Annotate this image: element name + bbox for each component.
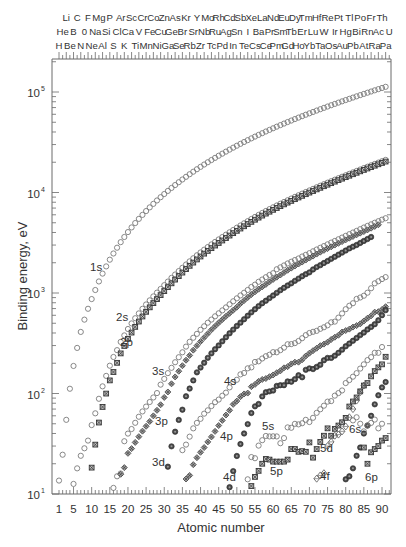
x-axis-title: Atomic number xyxy=(177,520,265,535)
element-symbol: Lu xyxy=(308,26,319,37)
element-symbol: In xyxy=(229,40,237,51)
element-symbol: Er xyxy=(297,26,307,37)
shell-label-2p: 2p xyxy=(120,336,133,348)
x-tick-label: 75 xyxy=(321,503,334,515)
y-tick-exponent: 2 xyxy=(41,387,45,394)
element-symbol: Bi xyxy=(352,26,361,37)
element-symbol: N xyxy=(77,40,84,51)
x-tick-label: 50 xyxy=(230,503,243,515)
x-tick-label: 85 xyxy=(357,503,370,515)
x-tick-label: 1 xyxy=(56,503,62,515)
shell-label-3p: 3p xyxy=(155,415,168,427)
x-tick-label: 25 xyxy=(140,503,153,515)
element-symbol: U xyxy=(386,26,393,37)
series-3s xyxy=(111,216,388,491)
x-tick-label: 45 xyxy=(212,503,225,515)
shell-label-6s: 6s xyxy=(349,423,361,435)
element-symbol: I xyxy=(246,26,249,37)
binding-energy-chart: LiCFMgPArScCrCoZnAsKrYMoRhCdSbXeLaNdEuDy… xyxy=(0,0,406,547)
element-symbol: Pa xyxy=(380,40,392,51)
element-symbol: Ac xyxy=(373,26,384,37)
shell-label-6p: 6p xyxy=(365,471,378,483)
element-symbol: Th xyxy=(376,12,387,23)
element-symbol: Y xyxy=(194,12,201,23)
shell-label-4s: 4s xyxy=(224,375,236,387)
element-symbol: Ne xyxy=(86,40,98,51)
element-symbol: K xyxy=(121,40,128,51)
y-tick-label: 10 xyxy=(27,389,40,401)
y-tick-label: 10 xyxy=(27,188,40,200)
x-tick-label: 5 xyxy=(70,503,76,515)
y-tick-label: 10 xyxy=(27,87,40,99)
element-symbol: Mg xyxy=(92,12,105,23)
x-tick-label: 65 xyxy=(285,503,298,515)
shell-label-5p: 5p xyxy=(270,465,283,477)
x-tick-label: 15 xyxy=(103,503,116,515)
element-symbol: Re xyxy=(321,12,333,23)
element-symbol: P xyxy=(107,12,113,23)
element-symbol: Ir xyxy=(332,26,339,37)
element-symbol: Hg xyxy=(340,26,352,37)
element-symbol: Na xyxy=(89,26,102,37)
element-symbol: Fr xyxy=(367,12,377,23)
element-symbol: Co xyxy=(147,12,159,23)
y-tick-exponent: 1 xyxy=(41,487,45,494)
element-symbol: B xyxy=(70,26,76,37)
y-tick-exponent: 5 xyxy=(41,85,45,92)
element-symbol: F xyxy=(85,12,91,23)
shell-label-4d: 4d xyxy=(223,471,236,483)
x-tick-label: 40 xyxy=(194,503,207,515)
element-symbol: Tb xyxy=(286,26,297,37)
element-symbol: Zn xyxy=(159,12,170,23)
axes: 1510152025303540455055606570758085901011… xyxy=(27,52,391,515)
element-symbol: Po xyxy=(354,12,366,23)
element-symbol: As xyxy=(170,12,181,23)
series-6p xyxy=(361,436,388,466)
shell-label-1s: 1s xyxy=(90,261,102,273)
element-symbols-top-axis: LiCFMgPArScCrCoZnAsKrYMoRhCdSbXeLaNdEuDy… xyxy=(56,12,393,51)
element-symbol: Rb xyxy=(184,40,196,51)
shell-label-3s: 3s xyxy=(152,365,164,377)
element-symbol: Hf xyxy=(312,12,322,23)
chart-canvas: LiCFMgPArScCrCoZnAsKrYMoRhCdSbXeLaNdEuDy… xyxy=(0,0,406,547)
shell-label-3d: 3d xyxy=(152,456,165,468)
element-symbol: Te xyxy=(239,40,249,51)
element-symbol: W xyxy=(319,26,329,37)
element-symbol: S xyxy=(110,40,116,51)
element-symbol: H xyxy=(56,40,63,51)
element-symbol: Sc xyxy=(126,12,137,23)
element-symbol: Xe xyxy=(245,12,257,23)
element-symbol: Kr xyxy=(181,12,191,23)
shell-label-5s: 5s xyxy=(262,420,274,432)
element-symbol: Be xyxy=(64,40,76,51)
y-axis-title: Binding energy, eV xyxy=(15,221,30,330)
element-symbol: Cl xyxy=(113,26,122,37)
element-symbol: Ar xyxy=(116,12,126,23)
shell-label-2s: 2s xyxy=(116,311,128,323)
element-symbol: Ca xyxy=(122,26,135,37)
x-tick-label: 30 xyxy=(158,503,171,515)
x-tick-label: 10 xyxy=(85,503,98,515)
element-symbol: At xyxy=(359,40,368,51)
element-symbol: Tc xyxy=(207,40,217,51)
element-symbol: Pb xyxy=(347,40,359,51)
element-symbol: Ge xyxy=(165,26,178,37)
y-tick-label: 10 xyxy=(27,489,40,501)
x-tick-label: 90 xyxy=(376,503,389,515)
element-symbol: C xyxy=(74,12,81,23)
x-tick-label: 55 xyxy=(249,503,262,515)
x-tick-label: 35 xyxy=(176,503,189,515)
element-symbol: Ba xyxy=(253,26,265,37)
element-symbol: Pt xyxy=(334,12,343,23)
y-tick-exponent: 3 xyxy=(41,286,45,293)
x-tick-label: 70 xyxy=(303,503,316,515)
x-tick-label: 20 xyxy=(122,503,135,515)
x-tick-label: 80 xyxy=(339,503,352,515)
element-symbol: Zr xyxy=(196,40,206,51)
element-symbol: Al xyxy=(98,40,107,51)
element-symbol: Li xyxy=(63,12,70,23)
element-symbol: Tl xyxy=(345,12,353,23)
element-symbol: Rn xyxy=(361,26,373,37)
element-symbol: He xyxy=(56,26,68,37)
element-symbol: Br xyxy=(178,26,188,37)
